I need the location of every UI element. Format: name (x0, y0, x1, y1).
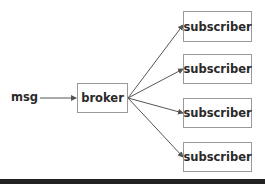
subscriber-label: subscriber (183, 20, 251, 34)
edge-broker-subscriber-4 (128, 98, 183, 157)
edge-broker-subscriber-1 (128, 25, 183, 98)
subscriber-label: subscriber (183, 150, 251, 164)
subscriber-node-2: subscriber (183, 54, 252, 84)
subscriber-node-3: subscriber (183, 98, 252, 128)
subscriber-node-1: subscriber (183, 11, 252, 42)
subscriber-label: subscriber (183, 106, 251, 120)
edge-broker-subscriber-2 (128, 69, 183, 98)
broker-label: broker (81, 91, 124, 105)
subscriber-node-4: subscriber (183, 142, 252, 172)
edge-broker-subscriber-3 (128, 98, 183, 113)
broker-node: broker (77, 83, 128, 113)
msg-label: msg (11, 90, 38, 104)
bottom-bar (0, 179, 265, 184)
subscriber-label: subscriber (183, 62, 251, 76)
